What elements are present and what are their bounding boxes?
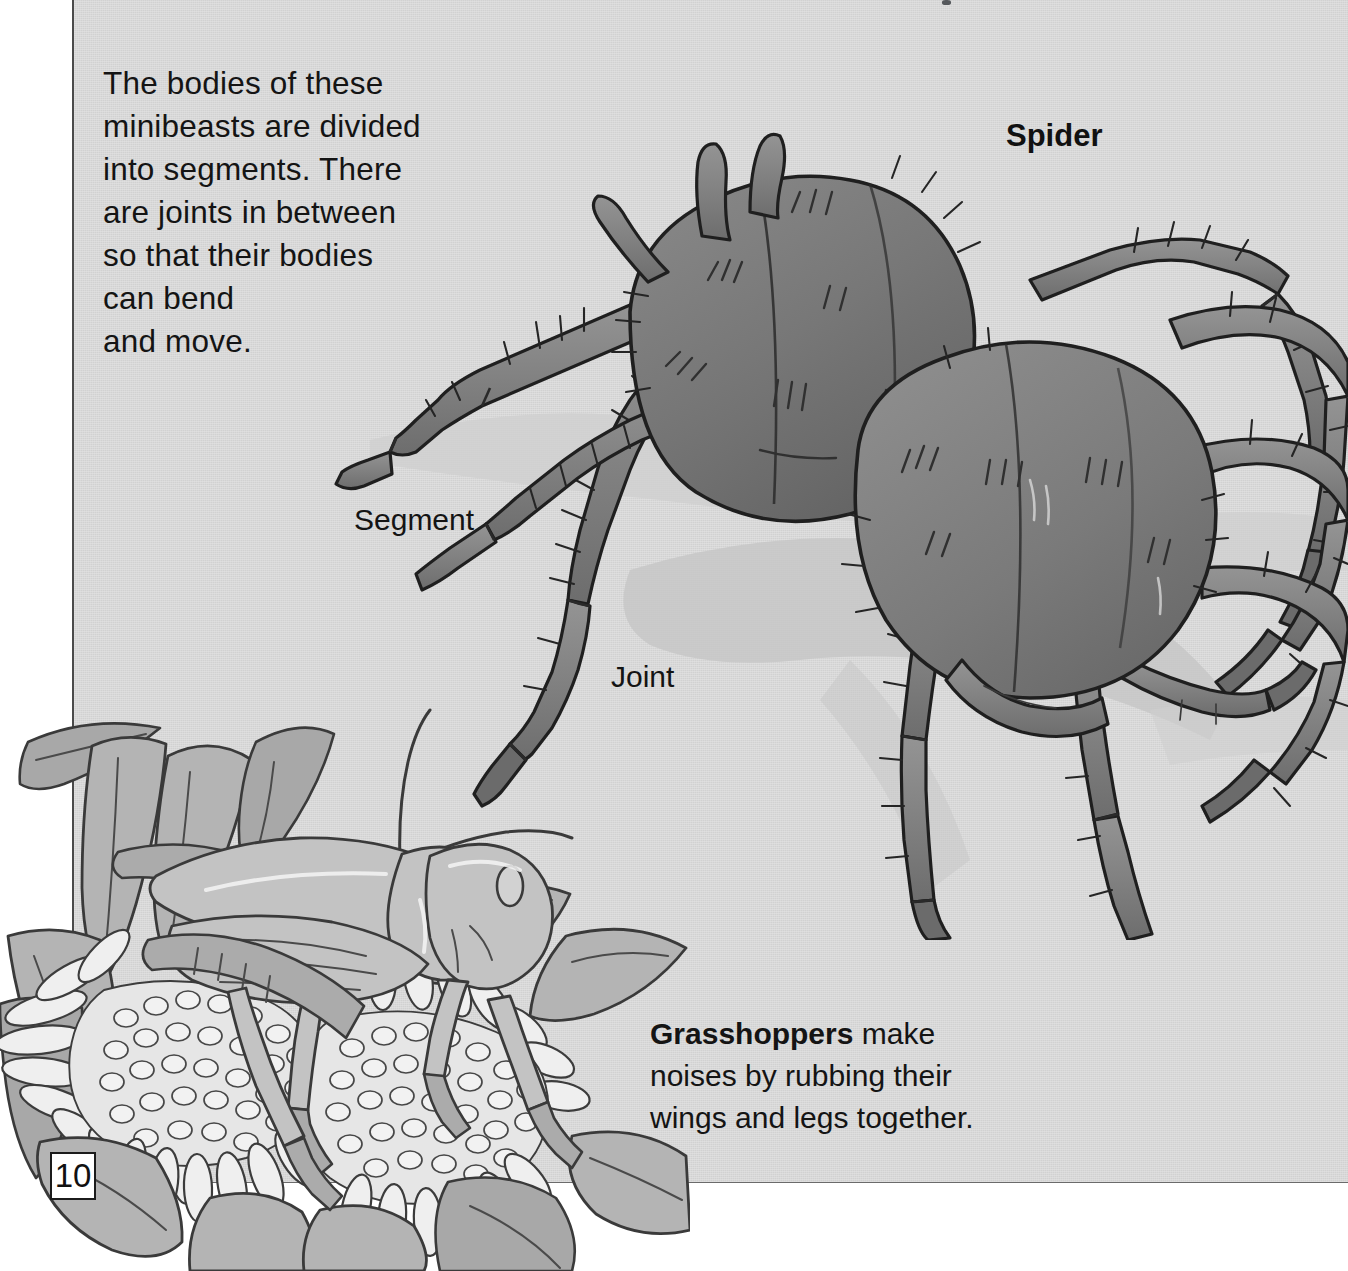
intro-paragraph: The bodies of these minibeasts are divid… [103, 62, 421, 363]
print-speck [942, 0, 951, 5]
page-number: 10 [50, 1152, 96, 1200]
grasshopper-caption: Grasshoppers make noises by rubbing thei… [650, 1013, 974, 1139]
label-spider: Spider [1006, 118, 1102, 154]
caption-bold-lead: Grasshoppers [650, 1017, 853, 1050]
label-joint: Joint [611, 660, 674, 694]
label-segment: Segment [354, 503, 474, 537]
